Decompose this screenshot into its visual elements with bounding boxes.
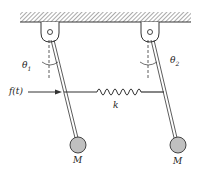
right-pivot [141, 22, 159, 42]
theta2-label: θ2 [170, 56, 179, 67]
left-mass-label: M [73, 156, 82, 165]
theta2-subscript: 2 [175, 60, 179, 67]
theta1-arc [42, 62, 58, 65]
theta1-label: θ1 [22, 61, 31, 72]
theta2-arc [140, 62, 157, 65]
spring [64, 89, 164, 95]
left-mass [70, 137, 86, 153]
pendulum-diagram [0, 0, 201, 172]
theta1-subscript: 1 [27, 65, 31, 72]
right-mass-label: M [173, 157, 182, 166]
left-pivot [41, 22, 59, 42]
right-mass [170, 137, 186, 153]
force-arrow [28, 90, 62, 95]
force-label: f(t) [9, 87, 23, 96]
ceiling [20, 12, 191, 22]
spring-constant-label: k [113, 101, 118, 110]
